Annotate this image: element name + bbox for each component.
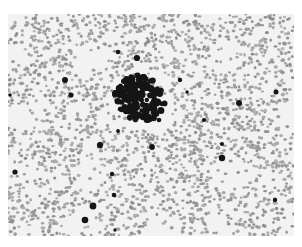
blood-smear-illustration — [8, 14, 294, 236]
micrograph-image — [8, 14, 294, 236]
